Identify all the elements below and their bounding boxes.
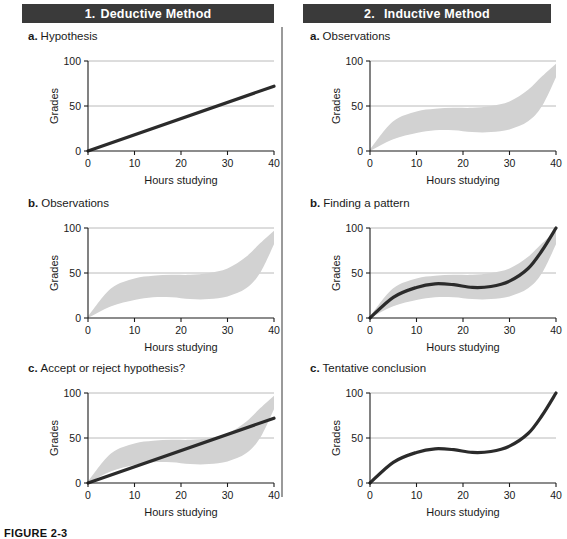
svg-text:10: 10 [411, 157, 423, 169]
svg-text:Grades: Grades [48, 87, 60, 124]
svg-text:Hours studying: Hours studying [426, 174, 499, 186]
svg-text:0: 0 [367, 489, 373, 501]
svg-text:10: 10 [411, 324, 423, 336]
svg-text:50: 50 [69, 100, 81, 112]
chart-deductive-a: 050100010203040Hours studyingGrades [16, 47, 288, 194]
panel-title: b.Finding a pattern [310, 197, 410, 209]
svg-text:30: 30 [504, 489, 516, 501]
column-title: Deductive Method [100, 7, 211, 21]
svg-text:Grades: Grades [330, 254, 342, 291]
svg-text:0: 0 [357, 477, 363, 489]
svg-text:50: 50 [351, 267, 363, 279]
svg-text:40: 40 [268, 324, 280, 336]
chart-inductive-c: 050100010203040Hours studyingGrades [298, 379, 567, 526]
svg-text:Grades: Grades [330, 419, 342, 456]
column-number: 1. [85, 7, 96, 21]
svg-text:20: 20 [175, 157, 187, 169]
panel-label: Tentative conclusion [323, 362, 427, 374]
panel-inductive-c: c.Tentative conclusion 050100010203040Ho… [298, 362, 567, 526]
svg-text:100: 100 [63, 387, 81, 399]
svg-text:Grades: Grades [48, 254, 60, 291]
svg-text:0: 0 [75, 477, 81, 489]
svg-text:20: 20 [457, 324, 469, 336]
panel-label: Observations [41, 197, 109, 209]
svg-text:Hours studying: Hours studying [144, 174, 217, 186]
svg-text:30: 30 [222, 324, 234, 336]
svg-text:0: 0 [85, 157, 91, 169]
column-number: 2. [364, 7, 375, 21]
svg-text:40: 40 [550, 489, 562, 501]
chart-deductive-c: 050100010203040Hours studyingGrades [16, 379, 288, 526]
column-header-deductive: 1. Deductive Method [22, 4, 274, 23]
svg-text:30: 30 [504, 324, 516, 336]
panel-label: Accept or reject hypothesis? [41, 362, 185, 374]
panel-inductive-b: b.Finding a pattern 050100010203040Hours… [298, 197, 567, 361]
svg-text:20: 20 [457, 489, 469, 501]
svg-text:10: 10 [411, 489, 423, 501]
svg-text:0: 0 [85, 324, 91, 336]
column-title: Inductive Method [384, 7, 490, 21]
svg-text:10: 10 [129, 324, 141, 336]
panel-letter: c. [310, 362, 320, 374]
svg-text:40: 40 [268, 157, 280, 169]
svg-text:50: 50 [351, 100, 363, 112]
column-header-inductive: 2. Inductive Method [303, 4, 551, 23]
svg-text:0: 0 [75, 312, 81, 324]
svg-text:10: 10 [129, 489, 141, 501]
panel-label: Finding a pattern [323, 197, 409, 209]
chart-deductive-b: 050100010203040Hours studyingGrades [16, 214, 288, 361]
svg-text:0: 0 [357, 312, 363, 324]
svg-text:10: 10 [129, 157, 141, 169]
panel-title: a.Observations [310, 30, 390, 42]
svg-text:30: 30 [222, 489, 234, 501]
svg-text:Hours studying: Hours studying [144, 341, 217, 353]
panel-inductive-a: a.Observations 050100010203040Hours stud… [298, 30, 567, 194]
panel-deductive-b: b.Observations 050100010203040Hours stud… [16, 197, 288, 361]
svg-text:40: 40 [550, 157, 562, 169]
panel-title: b.Observations [28, 197, 109, 209]
svg-text:Hours studying: Hours studying [144, 506, 217, 518]
svg-text:100: 100 [63, 55, 81, 67]
svg-text:0: 0 [75, 145, 81, 157]
panel-letter: a. [310, 30, 320, 42]
panel-letter: b. [310, 197, 320, 209]
svg-text:100: 100 [345, 55, 363, 67]
panel-letter: b. [28, 197, 38, 209]
chart-inductive-a: 050100010203040Hours studyingGrades [298, 47, 567, 194]
panel-letter: c. [28, 362, 38, 374]
svg-text:Grades: Grades [330, 87, 342, 124]
svg-text:30: 30 [222, 157, 234, 169]
svg-text:50: 50 [69, 267, 81, 279]
svg-text:0: 0 [367, 157, 373, 169]
svg-text:Hours studying: Hours studying [426, 341, 499, 353]
figure-caption: FIGURE 2-3 [4, 527, 68, 539]
svg-text:20: 20 [175, 489, 187, 501]
svg-text:0: 0 [85, 489, 91, 501]
svg-text:20: 20 [457, 157, 469, 169]
svg-text:Hours studying: Hours studying [426, 506, 499, 518]
svg-text:100: 100 [345, 387, 363, 399]
panel-deductive-c: c.Accept or reject hypothesis? 050100010… [16, 362, 288, 526]
panel-title: a.Hypothesis [28, 30, 97, 42]
panel-title: c.Tentative conclusion [310, 362, 426, 374]
svg-text:0: 0 [357, 145, 363, 157]
svg-text:Grades: Grades [48, 419, 60, 456]
panel-title: c.Accept or reject hypothesis? [28, 362, 185, 374]
panel-letter: a. [28, 30, 38, 42]
chart-inductive-b: 050100010203040Hours studyingGrades [298, 214, 567, 361]
svg-text:50: 50 [351, 432, 363, 444]
svg-text:40: 40 [268, 489, 280, 501]
svg-text:100: 100 [345, 222, 363, 234]
svg-text:20: 20 [175, 324, 187, 336]
svg-text:0: 0 [367, 324, 373, 336]
svg-text:50: 50 [69, 432, 81, 444]
panel-deductive-a: a.Hypothesis 050100010203040Hours studyi… [16, 30, 288, 194]
svg-text:100: 100 [63, 222, 81, 234]
panel-label: Hypothesis [41, 30, 98, 42]
svg-text:30: 30 [504, 157, 516, 169]
svg-text:40: 40 [550, 324, 562, 336]
panel-label: Observations [323, 30, 391, 42]
